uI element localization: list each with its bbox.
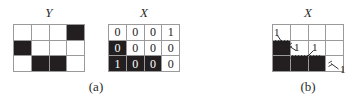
- matrix-cell[interactable]: [32, 41, 49, 56]
- matrix-cell[interactable]: [273, 41, 290, 56]
- matrix-cell[interactable]: 0: [145, 41, 162, 56]
- matrix-cell[interactable]: [273, 56, 290, 71]
- matrix-grid-x-b: [272, 24, 344, 72]
- matrix-cell[interactable]: [67, 41, 84, 56]
- annotation-value-4: 1: [340, 64, 346, 75]
- matrix-cell[interactable]: [67, 25, 84, 40]
- matrix-cell[interactable]: 0: [145, 56, 162, 71]
- matrix-cell[interactable]: [309, 25, 326, 40]
- matrix-cell[interactable]: [14, 25, 31, 40]
- matrix-cell-value: 0: [168, 58, 174, 70]
- matrix-cell[interactable]: 0: [162, 41, 179, 56]
- matrix-cell[interactable]: 0: [162, 56, 179, 71]
- matrix-cell[interactable]: [50, 41, 67, 56]
- matrix-cell[interactable]: [291, 25, 308, 40]
- matrix-cell-value: 0: [150, 26, 156, 38]
- matrix-cell[interactable]: [309, 56, 326, 71]
- matrix-cell-value: 1: [114, 58, 120, 70]
- matrix-cell-value: 0: [168, 42, 174, 54]
- panel-caption-b: (b): [275, 80, 341, 94]
- matrix-grid-x-a: 0 0 0 1 0 0 0 0 1 0 0 0: [108, 24, 180, 72]
- figure-root: Y X 0 0 0 1 0 0 0 0 1 0 0 0 (a) X: [0, 0, 360, 109]
- matrix-cell[interactable]: [291, 56, 308, 71]
- annotation-value-3: 1: [312, 42, 318, 53]
- matrix-cell-value: 0: [114, 26, 120, 38]
- matrix-cell-value: 0: [132, 26, 138, 38]
- matrix-grid-y-a: [13, 24, 85, 72]
- matrix-cell[interactable]: 0: [127, 56, 144, 71]
- matrix-cell[interactable]: [50, 56, 67, 71]
- matrix-cell[interactable]: 0: [127, 41, 144, 56]
- matrix-label-y-a: Y: [13, 6, 85, 20]
- matrix-cell[interactable]: 0: [127, 25, 144, 40]
- matrix-cell[interactable]: [14, 56, 31, 71]
- matrix-cell-value: 0: [132, 42, 138, 54]
- matrix-cell[interactable]: [14, 41, 31, 56]
- annotation-value-1: 1: [274, 27, 280, 38]
- matrix-cell[interactable]: 0: [145, 25, 162, 40]
- matrix-cell-value: 1: [168, 26, 174, 38]
- panel-caption-a: (a): [56, 80, 136, 94]
- matrix-cell-value: 0: [132, 58, 138, 70]
- matrix-cell[interactable]: 0: [109, 41, 126, 56]
- matrix-cell[interactable]: 1: [162, 25, 179, 40]
- matrix-cell[interactable]: 0: [109, 25, 126, 40]
- annotation-value-2: 1: [294, 42, 300, 53]
- matrix-label-x-a: X: [108, 6, 180, 20]
- matrix-cell[interactable]: [326, 41, 343, 56]
- matrix-cell[interactable]: [32, 56, 49, 71]
- matrix-cell[interactable]: [32, 25, 49, 40]
- matrix-cell-value: 0: [150, 42, 156, 54]
- matrix-cell[interactable]: 1: [109, 56, 126, 71]
- matrix-cell-value: 0: [150, 58, 156, 70]
- matrix-cell-value: 0: [114, 42, 120, 54]
- matrix-label-x-b: X: [272, 6, 344, 20]
- matrix-cell[interactable]: [326, 25, 343, 40]
- matrix-cell[interactable]: [50, 25, 67, 40]
- matrix-cell[interactable]: [67, 56, 84, 71]
